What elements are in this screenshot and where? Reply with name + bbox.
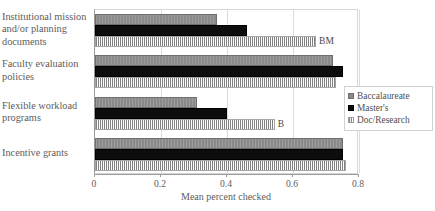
bar-bacc: [95, 97, 197, 108]
bar-doc: [95, 36, 316, 47]
bar-annotation: B: [278, 119, 284, 130]
category-label-line: programs: [2, 112, 92, 124]
plot-area: BMB: [94, 9, 358, 174]
x-axis-title: Mean percent checked: [94, 191, 358, 202]
bar-mast: [95, 66, 343, 77]
bar-chart: Institutional missionand/or planningdocu…: [0, 0, 435, 211]
x-axis-tick-label: 0.2: [154, 178, 166, 189]
bar-bacc: [95, 14, 217, 25]
x-axis-tick-label: 0: [92, 178, 97, 189]
x-axis-tick: [358, 174, 359, 177]
bar-doc: [95, 160, 346, 171]
category-label: Institutional missionand/or planningdocu…: [2, 11, 92, 48]
bar-mast: [95, 108, 227, 119]
category-label-line: and/or planning: [2, 23, 92, 35]
legend-label: Baccalaureate: [357, 91, 410, 102]
x-axis-tick-label: 0.4: [220, 178, 232, 189]
x-axis-tick: [94, 174, 95, 177]
bar-doc: [95, 77, 336, 88]
legend-item: Master's: [348, 102, 430, 114]
category-label: Incentive grants: [2, 147, 92, 159]
legend-swatch-icon: [348, 105, 354, 111]
legend-swatch-icon: [348, 93, 354, 99]
category-label-line: Flexible workload: [2, 100, 92, 112]
bar-bacc: [95, 55, 333, 66]
category-label-line: Faculty evaluation: [2, 58, 92, 70]
category-axis-labels: Institutional missionand/or planningdocu…: [2, 9, 92, 174]
legend-item: Baccalaureate: [348, 90, 430, 102]
chart-legend: BaccalaureateMaster'sDoc/Research: [344, 86, 433, 131]
category-label-line: Incentive grants: [2, 147, 92, 159]
category-label: Faculty evaluationpolicies: [2, 58, 92, 83]
bar-mast: [95, 149, 343, 160]
x-axis-tick: [160, 174, 161, 177]
bar-bacc: [95, 138, 343, 149]
bar-doc: [95, 119, 275, 130]
legend-label: Master's: [357, 103, 388, 114]
x-axis-tick: [292, 174, 293, 177]
legend-swatch-icon: [348, 117, 354, 123]
x-axis-tick-label: 0.6: [286, 178, 298, 189]
category-label-line: policies: [2, 71, 92, 83]
category-label-line: documents: [2, 36, 92, 48]
legend-item: Doc/Research: [348, 114, 430, 126]
bar-annotation: BM: [319, 36, 334, 47]
category-label-line: Institutional mission: [2, 11, 92, 23]
category-label: Flexible workloadprograms: [2, 100, 92, 125]
x-axis-tick-label: 0.8: [352, 178, 364, 189]
legend-label: Doc/Research: [357, 115, 410, 126]
bar-mast: [95, 25, 247, 36]
x-axis-tick: [226, 174, 227, 177]
